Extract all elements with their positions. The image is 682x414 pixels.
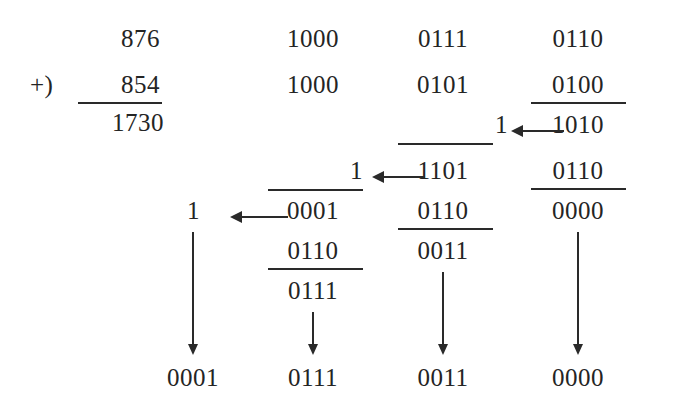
decimal-augend: 876 <box>30 26 160 51</box>
tens-sum-rule <box>398 143 493 145</box>
hundreds-result: 0111 <box>288 278 338 303</box>
hundreds-correction: 0110 <box>287 238 338 263</box>
carry-arrow-units-to-tens <box>521 130 564 132</box>
final-result-hundreds: 0111 <box>288 365 338 390</box>
units-correction-rule <box>531 188 626 190</box>
units-operand-a: 0110 <box>552 26 603 51</box>
hundreds-operand-b: 1000 <box>287 72 339 97</box>
carry-arrow-hundreds-to-thousands <box>240 216 288 218</box>
decimal-addend: 854 <box>30 72 160 97</box>
units-partial-sum: 1010 <box>552 112 604 137</box>
tens-partial-sum: 1101 <box>417 158 468 183</box>
units-sum-rule <box>531 102 626 104</box>
tens-operand-a: 0111 <box>418 26 468 51</box>
units-operand-b: 0100 <box>552 72 604 97</box>
hundreds-sum-rule <box>268 189 363 191</box>
binary-addition-figure: 876 +) 854 1730 0110 0100 1010 0110 0000… <box>0 0 682 414</box>
tens-result: 0011 <box>417 238 468 263</box>
hundreds-result-down-arrow <box>312 312 314 346</box>
decimal-sum: 1730 <box>30 110 164 135</box>
carry-arrow-tens-to-hundreds <box>382 176 425 178</box>
final-result-thousands: 0001 <box>167 365 219 390</box>
units-correction: 0110 <box>552 158 603 183</box>
hundreds-operand-a: 1000 <box>287 26 339 51</box>
units-result-down-arrow <box>577 232 579 346</box>
tens-correction-rule <box>398 228 493 230</box>
tens-carry-in: 1 <box>495 112 508 137</box>
thousands-result-down-arrow <box>192 232 194 346</box>
hundreds-correction-rule <box>268 268 363 270</box>
hundreds-carry-in: 1 <box>350 158 363 183</box>
thousands-carry-in: 1 <box>187 198 200 223</box>
final-result-tens: 0011 <box>417 365 468 390</box>
tens-operand-b: 0101 <box>417 72 469 97</box>
final-result-units: 0000 <box>552 365 604 390</box>
units-result: 0000 <box>552 198 604 223</box>
hundreds-partial-sum: 0001 <box>287 198 339 223</box>
tens-result-down-arrow <box>442 272 444 346</box>
tens-correction: 0110 <box>417 198 468 223</box>
decimal-addition-rule <box>78 102 162 104</box>
